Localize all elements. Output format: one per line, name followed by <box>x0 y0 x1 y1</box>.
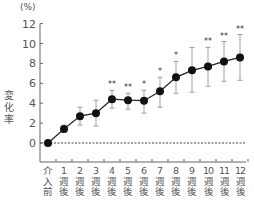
x-tick-label-line: 10 <box>201 166 215 177</box>
x-tick-label-line: 6 <box>138 166 150 177</box>
y-tick-label: 10 <box>22 38 36 51</box>
y-axis-label: 変化率 <box>2 90 16 126</box>
significance-marker: * <box>174 51 178 60</box>
y-tick-label: 2 <box>29 117 36 130</box>
x-tick-label: 介入前 <box>42 166 54 198</box>
x-tick-label-line: 後 <box>201 187 215 198</box>
x-tick-label: 8週後 <box>170 166 182 198</box>
significance-marker: * <box>158 67 162 76</box>
data-point <box>220 57 228 65</box>
x-tick-label-line: 後 <box>186 187 198 198</box>
x-tick-label-line: 後 <box>138 187 150 198</box>
y-tick-label: 8 <box>29 57 36 70</box>
plot-area: ************* <box>44 25 244 147</box>
x-tick-label-line: 介 <box>42 166 54 177</box>
x-tick-label-line: 後 <box>233 187 247 198</box>
x-tick-label: 9週後 <box>186 166 198 198</box>
x-tick-label: 12週後 <box>233 166 247 198</box>
x-tick-label-line: 4 <box>106 166 118 177</box>
significance-marker: ** <box>236 25 244 34</box>
x-tick-label-line: 後 <box>154 187 166 198</box>
data-point <box>236 53 244 61</box>
significance-marker: ** <box>124 83 132 92</box>
x-tick-label: 10週後 <box>201 166 215 198</box>
y-tick-label: 0 <box>29 137 36 150</box>
data-point <box>92 109 100 117</box>
x-tick-label-line: 3 <box>90 166 102 177</box>
y-axis-label-char: 率 <box>2 114 16 126</box>
y-axis-unit: (%) <box>20 2 36 12</box>
x-tick-label-line: 1 <box>58 166 70 177</box>
data-point <box>44 139 52 147</box>
data-point <box>156 87 164 95</box>
y-tick-label: 12 <box>22 18 36 31</box>
x-tick-label-line: 5 <box>122 166 134 177</box>
x-tick-label-line: 11 <box>217 166 231 177</box>
x-tick-label-line: 後 <box>217 187 231 198</box>
x-tick-label-line: 後 <box>90 187 102 198</box>
x-tick-label: 6週後 <box>138 166 150 198</box>
data-point <box>140 97 148 105</box>
x-tick-label-line: 前 <box>42 187 54 198</box>
data-point <box>204 62 212 70</box>
y-axis-label-char: 変 <box>2 90 16 102</box>
x-tick-label: 11週後 <box>217 166 231 198</box>
x-tick-label-line: 後 <box>122 187 134 198</box>
x-tick-label: 4週後 <box>106 166 118 198</box>
x-tick-label-line: 9 <box>186 166 198 177</box>
x-tick-label: 5週後 <box>122 166 134 198</box>
significance-marker: ** <box>220 32 228 41</box>
x-tick-label-line: 後 <box>106 187 118 198</box>
data-point <box>108 95 116 103</box>
x-tick-label: 3週後 <box>90 166 102 198</box>
x-tick-label-line: 後 <box>58 187 70 198</box>
x-tick-label-line: 2 <box>74 166 86 177</box>
y-tick-label: 4 <box>29 97 36 110</box>
significance-marker: * <box>142 80 146 89</box>
data-point <box>60 125 68 133</box>
y-tick-label: 6 <box>29 77 36 90</box>
axes: 024681012 <box>22 18 248 162</box>
x-tick-label-line: 8 <box>170 166 182 177</box>
y-axis-label-char: 化 <box>2 102 16 114</box>
x-tick-label-line: 後 <box>74 187 86 198</box>
x-tick-label-line: 7 <box>154 166 166 177</box>
data-point <box>76 112 84 120</box>
data-point <box>124 96 132 104</box>
significance-marker: ** <box>204 37 212 46</box>
data-point <box>188 66 196 74</box>
significance-marker: ** <box>108 80 116 89</box>
x-tick-label-line: 後 <box>170 187 182 198</box>
x-tick-label-line: 12 <box>233 166 247 177</box>
x-tick-label: 7週後 <box>154 166 166 198</box>
x-tick-label: 2週後 <box>74 166 86 198</box>
data-point <box>172 73 180 81</box>
x-tick-label: 1週後 <box>58 166 70 198</box>
